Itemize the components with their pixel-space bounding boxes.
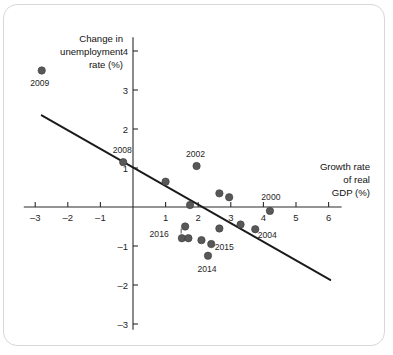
y-tick-label-3: 3 xyxy=(123,85,128,96)
point-label-2014: 2014 xyxy=(197,264,216,274)
x-tick-label--2: –2 xyxy=(63,212,74,223)
data-point-4[interactable] xyxy=(186,201,193,208)
point-label-2016: 2016 xyxy=(150,229,169,239)
x-tick-label-5: 5 xyxy=(293,212,298,223)
plot-svg: –3–2–11234564321–1–2–3200920082002201620… xyxy=(0,0,393,355)
y-tick-label--1: –1 xyxy=(117,241,128,252)
y-tick-label--3: –3 xyxy=(117,319,128,330)
x-tick-label-4: 4 xyxy=(261,212,266,223)
data-point-2002[interactable] xyxy=(193,162,200,169)
y-tick-label--2: –2 xyxy=(117,280,128,291)
y-axis-title-line-3: rate (%) xyxy=(89,59,123,70)
x-tick-label-6: 6 xyxy=(326,212,331,223)
y-axis-title-line-1: Change in xyxy=(79,33,123,44)
point-label-2000: 2000 xyxy=(261,192,280,202)
data-point-5[interactable] xyxy=(216,190,223,197)
x-tick-label--3: –3 xyxy=(30,212,41,223)
x-axis-title-line-3: GDP (%) xyxy=(332,187,370,198)
x-axis-title-line-1: Growth rate xyxy=(320,161,370,172)
data-point-2008[interactable] xyxy=(120,158,127,165)
point-label-2008: 2008 xyxy=(113,145,132,155)
data-point-6[interactable] xyxy=(225,194,232,201)
x-tick-label-2: 2 xyxy=(196,212,201,223)
x-tick-label-1: 1 xyxy=(163,212,168,223)
data-point-10[interactable] xyxy=(198,236,205,243)
y-tick-label-4: 4 xyxy=(123,46,128,57)
data-point-2014[interactable] xyxy=(204,252,211,259)
data-point-2000[interactable] xyxy=(266,207,273,214)
point-label-2004: 2004 xyxy=(258,230,277,240)
point-label-2009: 2009 xyxy=(30,78,49,88)
y-tick-label-2: 2 xyxy=(123,124,128,135)
trend-line xyxy=(42,115,331,280)
x-tick-label--1: –1 xyxy=(95,212,106,223)
data-point-13[interactable] xyxy=(216,225,223,232)
data-point-2[interactable] xyxy=(162,178,169,185)
point-label-2002: 2002 xyxy=(186,149,205,159)
scatter-plot: –3–2–11234564321–1–2–3200920082002201620… xyxy=(0,0,393,355)
data-point-9[interactable] xyxy=(185,235,192,242)
data-point-2016[interactable] xyxy=(181,223,188,230)
data-point-2009[interactable] xyxy=(38,67,45,74)
point-label-2015: 2015 xyxy=(215,242,234,252)
data-point-14[interactable] xyxy=(237,221,244,228)
x-axis-title-line-2: of real xyxy=(343,174,370,185)
y-axis-title-line-2: unemployment xyxy=(60,46,123,57)
